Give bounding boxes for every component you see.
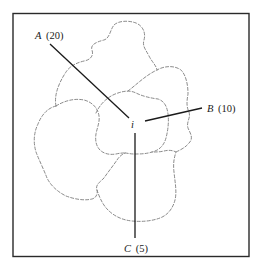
point-c-value: (5)	[136, 243, 149, 255]
point-c-letter: C	[124, 243, 132, 254]
ray-to-a	[50, 44, 129, 118]
point-b-letter: B	[207, 103, 214, 114]
region-left-top	[56, 99, 125, 154]
point-b-value: (10)	[218, 103, 236, 115]
region-right	[128, 67, 191, 152]
region-diagram: i A (20) B (10) C (5)	[0, 0, 261, 270]
point-label-c: C (5)	[124, 243, 148, 255]
point-label-b: B (10)	[207, 103, 236, 115]
center-label-i: i	[131, 119, 134, 130]
point-label-a: A (20)	[34, 30, 64, 42]
diagram-frame	[13, 14, 249, 257]
region-left	[34, 106, 125, 200]
point-a-letter: A	[34, 30, 42, 41]
ray-to-b	[145, 108, 202, 121]
region-bottom	[97, 150, 176, 221]
point-a-value: (20)	[46, 30, 64, 42]
